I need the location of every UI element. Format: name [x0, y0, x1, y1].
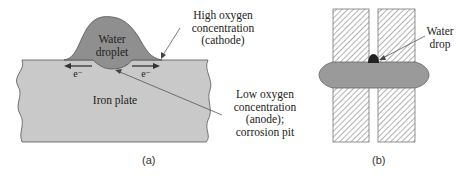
electron-right-label: e⁻	[138, 68, 154, 81]
hatched-block-bottom-left	[333, 87, 369, 142]
water-drop-line1: Water	[420, 25, 460, 38]
low-oxygen-line3: (anode);	[220, 113, 310, 126]
water-drop	[368, 54, 379, 63]
caption-a: (a)	[142, 154, 155, 166]
hatched-block-top-right	[378, 9, 415, 63]
caption-b: (b)	[372, 154, 385, 166]
droplet-label-line1: Water	[90, 33, 134, 46]
low-oxygen-line4: corrosion pit	[220, 126, 310, 139]
droplet-label: Water droplet	[90, 33, 134, 58]
high-oxygen-line3: (cathode)	[178, 34, 268, 47]
low-oxygen-label: Low oxygen concentration (anode); corros…	[220, 88, 310, 138]
droplet-label-line2: droplet	[90, 46, 134, 59]
high-oxygen-line2: concentration	[178, 22, 268, 35]
high-oxygen-label: High oxygen concentration (cathode)	[178, 9, 268, 47]
water-drop-line2: drop	[420, 38, 460, 51]
high-oxygen-line1: High oxygen	[178, 9, 268, 22]
electron-left-label: e⁻	[70, 68, 86, 81]
hatched-block-top-left	[333, 9, 369, 63]
low-oxygen-line2: concentration	[220, 101, 310, 114]
plate-label: Iron plate	[80, 94, 150, 107]
gray-bar	[319, 62, 429, 88]
low-oxygen-line1: Low oxygen	[220, 88, 310, 101]
hatched-block-bottom-right	[378, 87, 415, 142]
water-drop-label: Water drop	[420, 25, 460, 50]
